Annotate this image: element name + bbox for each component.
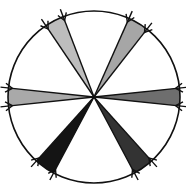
wedge-bottom-left (36, 97, 94, 173)
wedge-left (8, 88, 94, 106)
wedge-bottom-right (94, 97, 152, 173)
wedge-group (8, 17, 180, 173)
wedge-top-right (94, 18, 147, 97)
optics-ray-diagram (0, 0, 186, 189)
wedge-right (94, 88, 180, 106)
wedge-top-left (46, 17, 94, 97)
